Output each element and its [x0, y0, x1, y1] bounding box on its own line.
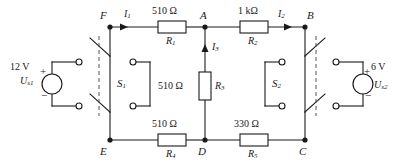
- source-Us2-value: 6 V: [371, 62, 386, 72]
- resistor-R3-sub: 3: [221, 84, 225, 92]
- terminal-S1-lower-right[interactable]: [130, 103, 136, 109]
- resistor-R3-name: R3: [215, 81, 225, 92]
- resistor-R3-value: 510 Ω: [158, 81, 183, 91]
- switch-S1-blade-lower[interactable]: [90, 94, 110, 112]
- junction-dot-B: [302, 24, 307, 29]
- node-label-C: C: [299, 146, 306, 157]
- circuit-schematic-canvas: [0, 0, 399, 168]
- source-Us2-name: Us2: [374, 80, 387, 91]
- resistor-R1-value: 510 Ω: [152, 6, 177, 16]
- resistor-R5-body: [240, 134, 268, 146]
- current-arrow-I2: [284, 24, 292, 31]
- switch-S1-label: S1: [117, 78, 126, 90]
- current-label-I3: I3: [212, 42, 219, 53]
- node-label-A: A: [200, 10, 207, 21]
- node-label-F: F: [100, 10, 107, 21]
- resistor-R4-body: [158, 134, 186, 146]
- node-label-E: E: [100, 146, 107, 157]
- node-label-D: D: [198, 146, 206, 157]
- terminal-S2-upper-right[interactable]: [333, 59, 339, 65]
- source-Us1-name: Us1: [20, 76, 33, 87]
- current-arrow-I3: [202, 44, 209, 52]
- source-Us2-sub: s2: [381, 83, 387, 91]
- node-label-B: B: [307, 10, 314, 21]
- switch-S1-sub: 1: [123, 82, 127, 90]
- junction-dot-D: [202, 137, 207, 142]
- switch-S1-blade-upper[interactable]: [90, 38, 110, 56]
- terminal-S2-lower-left[interactable]: [279, 103, 285, 109]
- switch-S2-blade-lower[interactable]: [305, 94, 325, 112]
- source-Us1-sub: s1: [27, 79, 33, 87]
- terminal-S2-upper-left[interactable]: [279, 59, 285, 65]
- current-label-I1-sub: 1: [127, 12, 131, 20]
- switch-S2-blade-upper[interactable]: [305, 38, 325, 56]
- resistor-R5-value: 330 Ω: [234, 119, 259, 129]
- resistor-R5-sub: 5: [254, 152, 258, 160]
- resistor-R3-body: [199, 72, 211, 100]
- resistor-R1-sub: 1: [172, 39, 176, 47]
- switch-S2-label: S2: [272, 78, 281, 90]
- current-arrow-I1: [120, 24, 128, 31]
- terminal-S2-lower-right[interactable]: [333, 103, 339, 109]
- source-Us1-plus-sign: +: [40, 66, 46, 77]
- resistor-R4-value: 510 Ω: [152, 119, 177, 129]
- resistor-R2-body: [240, 21, 268, 33]
- source-Us2-minus-sign: −: [365, 90, 371, 101]
- source-Us1-minus-sign: −: [41, 90, 47, 101]
- terminal-S1-upper-right[interactable]: [130, 59, 136, 65]
- resistor-R1-body: [158, 21, 186, 33]
- resistor-R1-name: R1: [166, 36, 176, 47]
- junction-dot-E: [107, 137, 112, 142]
- resistor-R5-name: R5: [248, 149, 258, 160]
- junction-dot-A: [202, 24, 207, 29]
- resistor-R2-sub: 2: [254, 39, 258, 47]
- junction-dot-F: [107, 24, 112, 29]
- switch-S2-sub: 2: [278, 82, 282, 90]
- terminal-S1-lower-left[interactable]: [76, 103, 82, 109]
- terminal-S1-upper-left[interactable]: [76, 59, 82, 65]
- current-label-I3-sub: 3: [215, 45, 219, 53]
- current-label-I2: I2: [278, 9, 285, 20]
- source-Us1-value: 12 V: [10, 62, 30, 72]
- resistor-R2-name: R2: [248, 36, 258, 47]
- source-Us2-plus-sign: +: [364, 66, 370, 77]
- resistor-R4-sub: 4: [172, 152, 176, 160]
- current-label-I2-sub: 2: [281, 12, 285, 20]
- junction-dot-C: [302, 137, 307, 142]
- resistor-R4-name: R4: [166, 149, 176, 160]
- current-label-I1: I1: [124, 9, 131, 20]
- circuit-diagram-figure: F A B E D C I1 I2 I3 510 Ω R1 1 kΩ R2 51…: [0, 0, 399, 168]
- resistor-R2-value: 1 kΩ: [238, 6, 258, 16]
